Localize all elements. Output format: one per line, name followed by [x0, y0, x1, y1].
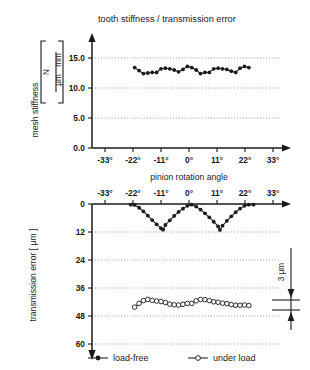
x-axis-stiffness: -33° -22° -11° 0° 11° 22° 33° [92, 144, 291, 165]
stiffness-unit-bracket: N µm mm [41, 41, 63, 103]
open-circle-icon [181, 302, 186, 307]
open-circle-icon [159, 299, 164, 304]
filled-circle-icon [129, 203, 133, 207]
filled-circle-icon [207, 71, 211, 75]
open-circle-icon [176, 303, 181, 308]
open-circle-icon [167, 302, 172, 307]
filled-circle-icon [247, 66, 251, 70]
x-axis-label-shared: pinion rotation angle [150, 172, 228, 182]
filled-circle-icon [185, 204, 189, 208]
x-tick-label: -33° [97, 188, 112, 198]
filled-circle-icon [137, 206, 141, 210]
filled-circle-icon [177, 210, 181, 214]
y-tick-label: 60 [76, 339, 86, 349]
filled-circle-icon [243, 65, 247, 69]
x-tick-label: -11° [154, 155, 169, 165]
filled-circle-icon [164, 66, 168, 70]
filled-circle-icon [172, 68, 176, 72]
open-circle-icon [154, 299, 159, 304]
y-axis-transmission-error: 0 12 24 36 48 60 [76, 199, 96, 360]
y-tick-label: 48 [76, 311, 86, 321]
open-circle-icon [172, 303, 177, 308]
filled-circle-icon [177, 70, 181, 74]
filled-circle-icon [252, 203, 256, 207]
y-axis-stiffness: 15.0 10.0 5.0 0.0 [69, 33, 96, 153]
unit-denominator-left: µm [54, 74, 63, 86]
filled-circle-icon [137, 69, 141, 73]
open-circle-icon [194, 299, 199, 304]
filled-circle-icon [221, 224, 225, 228]
y-tick-label: 5.0 [73, 113, 85, 123]
filled-circle-icon [225, 68, 229, 72]
open-circle-icon [189, 301, 194, 306]
y-tick-label: 36 [76, 283, 86, 293]
filled-circle-icon [207, 215, 211, 219]
filled-circle-icon [133, 203, 137, 207]
legend-label-under-load: under load [213, 353, 256, 363]
scale-bar-annotation: 3 µm [272, 248, 300, 330]
open-circle-icon [141, 298, 146, 303]
x-tick-label: -11° [154, 188, 169, 198]
open-circle-icon [247, 303, 252, 308]
y-tick-label: 0 [80, 199, 85, 209]
filled-circle-icon [247, 203, 251, 207]
open-circle-icon [220, 301, 225, 306]
x-tick-label: -33° [97, 155, 112, 165]
series-load-free-error [129, 203, 256, 232]
x-tick-label: 33° [267, 155, 280, 165]
open-circle-icon [203, 297, 208, 302]
filled-circle-icon [155, 222, 159, 226]
filled-circle-icon [243, 204, 247, 208]
open-circle-icon [150, 298, 155, 303]
filled-circle-icon [229, 69, 233, 73]
filled-circle-icon [172, 214, 176, 218]
filled-circle-icon [203, 211, 207, 215]
open-circle-icon [242, 303, 247, 308]
filled-circle-icon [142, 210, 146, 214]
x-tick-label: 33° [267, 188, 280, 198]
filled-circle-icon [212, 220, 216, 224]
filled-circle-icon [181, 207, 185, 211]
unit-denominator-right: mm [54, 53, 63, 67]
filled-circle-icon [234, 71, 238, 75]
open-circle-icon [216, 300, 221, 305]
series-load-free-stiffness [133, 65, 251, 76]
filled-circle-icon [159, 67, 163, 71]
y-tick-label: 24 [76, 255, 86, 265]
filled-circle-icon [238, 66, 242, 70]
filled-circle-icon [146, 71, 150, 75]
filled-circle-icon [216, 66, 220, 70]
x-tick-label: -22° [125, 155, 140, 165]
filled-circle-icon [96, 356, 101, 361]
filled-circle-icon [164, 223, 168, 227]
open-circle-icon [233, 303, 238, 308]
open-circle-icon [163, 300, 168, 305]
x-tick-label: 11° [211, 188, 223, 198]
filled-circle-icon [150, 71, 154, 75]
open-circle-icon [225, 301, 230, 306]
x-tick-label: 11° [211, 155, 223, 165]
unit-numerator: N [42, 69, 51, 75]
filled-circle-icon [216, 225, 220, 229]
legend-item-load-free[interactable]: load-free [88, 353, 149, 363]
scale-bar-label: 3 µm [277, 263, 286, 282]
filled-circle-icon [229, 214, 233, 218]
filled-circle-icon [199, 72, 203, 76]
y-tick-label: 12 [76, 227, 86, 237]
x-tick-label: 22° [239, 188, 252, 198]
x-tick-label: 0° [185, 155, 193, 165]
open-circle-icon [196, 356, 201, 361]
series-path [131, 205, 254, 230]
series-under-load-error [132, 297, 251, 309]
y-tick-label: 10.0 [69, 83, 86, 93]
filled-circle-icon [218, 228, 222, 232]
filled-circle-icon [225, 219, 229, 223]
filled-circle-icon [203, 71, 207, 75]
open-circle-icon [146, 297, 151, 302]
filled-circle-icon [161, 228, 165, 232]
legend: load-free under load [88, 353, 256, 363]
filled-circle-icon [190, 203, 194, 207]
legend-item-under-load[interactable]: under load [188, 353, 256, 363]
chart-title: tooth stiffness / transmission error [98, 14, 236, 24]
gear-mesh-figure: tooth stiffness / transmission error N µ… [0, 0, 310, 370]
